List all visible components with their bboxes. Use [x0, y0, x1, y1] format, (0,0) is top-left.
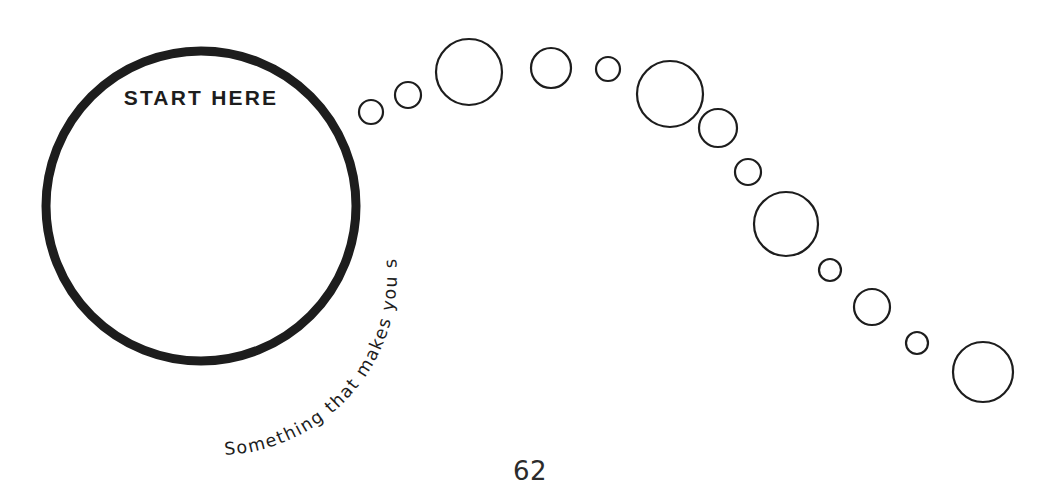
bubble-trail: [359, 39, 1013, 402]
bubble-circle[interactable]: [637, 61, 703, 127]
bubble-circle[interactable]: [596, 57, 620, 81]
bubble-circle[interactable]: [754, 192, 818, 256]
bubble-circle[interactable]: [854, 289, 890, 325]
bubble-circle[interactable]: [735, 159, 761, 185]
page-number: 62: [513, 456, 547, 486]
bubble-circle[interactable]: [699, 109, 737, 147]
bubble-circle[interactable]: [819, 259, 841, 281]
bubble-circle[interactable]: [436, 39, 502, 105]
bubble-circle[interactable]: [395, 82, 421, 108]
bubble-circle[interactable]: [531, 48, 571, 88]
start-here-label: START HERE: [124, 86, 279, 109]
worksheet-canvas: START HERE Something that makes you smil…: [0, 0, 1061, 500]
bubble-circle[interactable]: [359, 100, 383, 124]
bubble-circle[interactable]: [953, 342, 1013, 402]
journal-page: START HERE Something that makes you smil…: [0, 0, 1061, 500]
bubble-circle[interactable]: [906, 332, 928, 354]
